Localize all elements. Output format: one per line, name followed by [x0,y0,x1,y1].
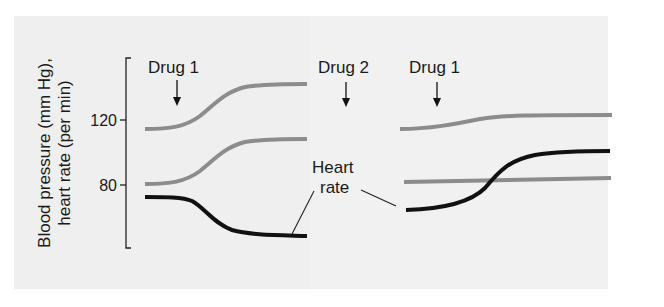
y-tick-80: 80 [99,177,117,194]
y-axis-label-line1: Blood pressure (mm Hg), [35,58,54,248]
y-axis-label-line2: heart rate (per min) [55,80,74,226]
heart-rate-label-line1: Heart [312,158,354,177]
left-diastolic-trace [145,139,307,184]
drug1-left-label: Drug 1 [148,58,199,77]
left-heart-rate-trace [145,197,307,236]
left-systolic-trace [145,84,307,129]
chart-svg: Blood pressure (mm Hg), heart rate (per … [0,0,664,307]
right-diastolic-trace [404,178,611,182]
right-systolic-trace [400,115,612,129]
drug1-left-arrow-icon [173,80,181,106]
drug2-arrow-icon [342,82,350,107]
y-axis-bracket [120,58,131,248]
y-tick-120: 120 [90,112,117,129]
drug2-label: Drug 2 [318,58,369,77]
drug1-right-arrow-icon [433,82,441,107]
drug1-right-label: Drug 1 [409,58,460,77]
heart-rate-label-line2: rate [320,178,349,197]
